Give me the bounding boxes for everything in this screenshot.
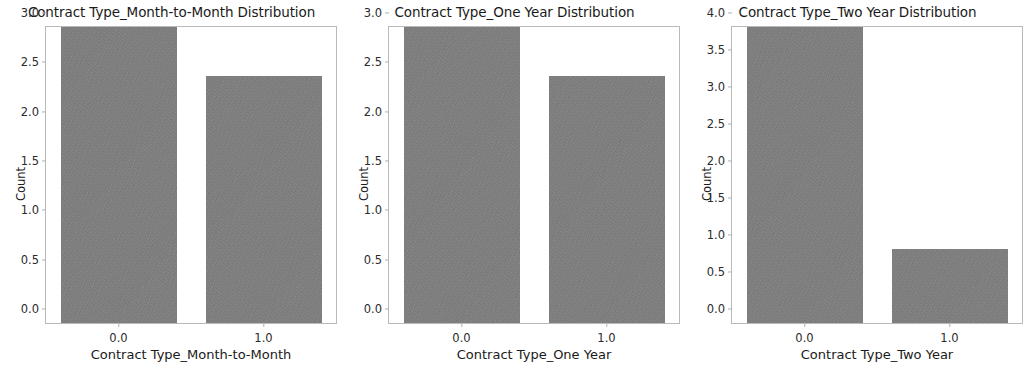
y-axis-tick-label: 2.0 bbox=[707, 154, 732, 168]
y-axis-tick-label: 0.5 bbox=[21, 253, 46, 267]
x-axis-tick-label: 0.0 bbox=[452, 323, 470, 345]
bar bbox=[404, 27, 520, 323]
y-axis-tick-label: 0.5 bbox=[707, 265, 732, 279]
y-axis-tick-label: 1.0 bbox=[364, 203, 389, 217]
y-axis-tick-label: 1.0 bbox=[707, 228, 732, 242]
y-axis-tick-label: 2.0 bbox=[21, 105, 46, 119]
subplot-contract-type-month-to-month: Contract Type_Month-to-Month Distributio… bbox=[0, 0, 343, 367]
plot-area-0 bbox=[46, 27, 336, 323]
subplot-title: Contract Type_One Year Distribution bbox=[343, 4, 686, 20]
bar bbox=[892, 249, 1008, 323]
bar bbox=[549, 76, 665, 323]
y-axis-tick-label: 3.0 bbox=[364, 6, 389, 20]
y-axis-tick-label: 3.0 bbox=[707, 80, 732, 94]
subplot-title: Contract Type_Two Year Distribution bbox=[686, 4, 1029, 20]
x-axis-tick-label: 1.0 bbox=[940, 323, 958, 345]
x-axis-tick-label: 1.0 bbox=[597, 323, 615, 345]
axes-frame: 0.00.51.01.52.02.53.00.01.0 bbox=[45, 26, 337, 324]
y-axis-tick-label: 2.5 bbox=[21, 55, 46, 69]
bar bbox=[206, 76, 322, 323]
plot-area-2 bbox=[732, 27, 1022, 323]
y-axis-tick-label: 0.0 bbox=[21, 302, 46, 316]
y-axis-tick-label: 1.5 bbox=[364, 154, 389, 168]
y-axis-tick-label: 1.5 bbox=[707, 191, 732, 205]
subplot-title: Contract Type_Month-to-Month Distributio… bbox=[0, 4, 343, 20]
y-axis-tick-label: 3.0 bbox=[21, 6, 46, 20]
y-axis-tick-label: 3.5 bbox=[707, 43, 732, 57]
bar bbox=[747, 27, 863, 323]
bar bbox=[61, 27, 177, 323]
x-axis-tick-label: 1.0 bbox=[254, 323, 272, 345]
y-axis-tick-label: 4.0 bbox=[707, 6, 732, 20]
x-axis-label: Contract Type_One Year bbox=[388, 347, 680, 362]
x-axis-tick-label: 0.0 bbox=[109, 323, 127, 345]
y-axis-tick-label: 1.5 bbox=[21, 154, 46, 168]
plot-area-1 bbox=[389, 27, 679, 323]
axes-frame: 0.00.51.01.52.02.53.03.54.00.01.0 bbox=[731, 26, 1023, 324]
x-axis-tick-label: 0.0 bbox=[795, 323, 813, 345]
y-axis-tick-label: 1.0 bbox=[21, 203, 46, 217]
y-axis-label: Count bbox=[14, 166, 28, 200]
y-axis-tick-label: 2.5 bbox=[364, 55, 389, 69]
axes-frame: 0.00.51.01.52.02.53.00.01.0 bbox=[388, 26, 680, 324]
x-axis-label: Contract Type_Month-to-Month bbox=[45, 347, 337, 362]
y-axis-tick-label: 2.5 bbox=[707, 117, 732, 131]
y-axis-tick-label: 2.0 bbox=[364, 105, 389, 119]
y-axis-tick-label: 0.0 bbox=[364, 302, 389, 316]
figure-bar-chart-grid: Contract Type_Month-to-Month Distributio… bbox=[0, 0, 1029, 367]
subplot-contract-type-two-year: Contract Type_Two Year Distribution Coun… bbox=[686, 0, 1029, 367]
y-axis-tick-label: 0.5 bbox=[364, 253, 389, 267]
y-axis-label: Count bbox=[357, 166, 371, 200]
subplot-contract-type-one-year: Contract Type_One Year Distribution Coun… bbox=[343, 0, 686, 367]
x-axis-label: Contract Type_Two Year bbox=[731, 347, 1023, 362]
y-axis-tick-label: 0.0 bbox=[707, 302, 732, 316]
